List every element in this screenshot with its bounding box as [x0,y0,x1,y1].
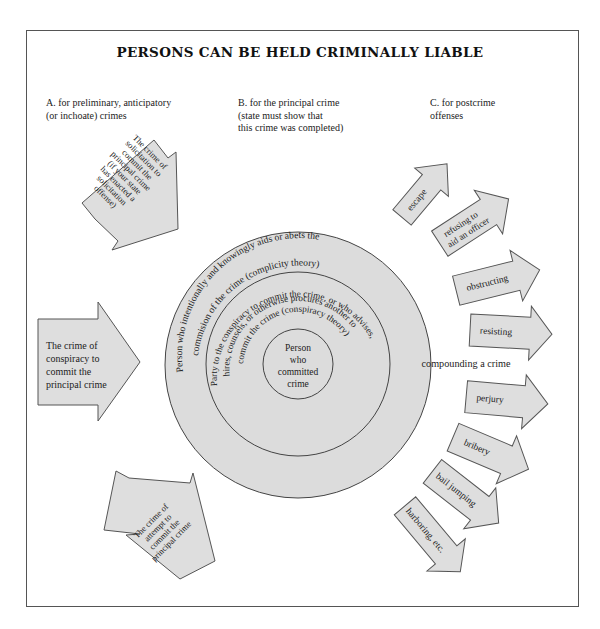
conspiracy-arrow: The crime of conspiracy to commit the pr… [38,302,140,421]
principal-text-1: Person [285,343,311,353]
principal-text-2: who [290,355,307,365]
attempt-arrow: The crime of attempt to commit the princ… [104,471,215,579]
compounding-label: compounding a crime [422,358,511,369]
resisting-arrow: resisting [469,303,554,361]
conspiracy-text-line3: commit the [46,366,92,377]
principal-text-4: crime [287,379,309,389]
conspiracy-text-line4: principal crime [46,379,107,390]
solicitation-arrow: The crime of solicitation to commit the … [82,130,178,250]
obstructing-arrow: obstructing [450,245,546,316]
principal-text-3: committed [278,367,319,377]
resisting-label: resisting [480,326,513,338]
conspiracy-text-line2: conspiracy to [46,353,100,364]
conspiracy-text-line1: The crime of [46,340,98,351]
diagram-canvas: Person who intentionally and knowingly a… [0,0,600,629]
perjury-arrow: perjury [464,370,550,431]
